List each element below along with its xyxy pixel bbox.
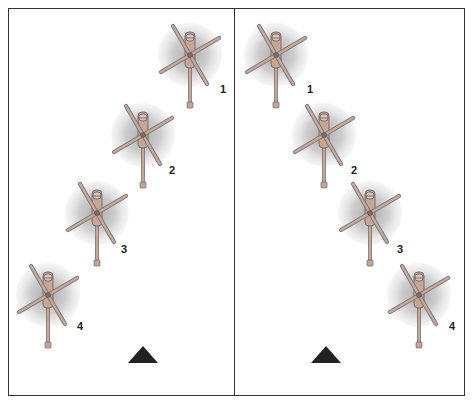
helicopter-number-label: 4: [77, 320, 83, 332]
helicopter-icon: [16, 263, 80, 348]
helicopter-number-label: 3: [397, 243, 403, 255]
helicopter-number-label: 1: [307, 83, 313, 95]
helicopter-icon: [292, 103, 356, 188]
helicopter-icon: [244, 23, 308, 108]
helicopter-number-label: 2: [351, 164, 357, 176]
helicopter-icon: [65, 181, 129, 266]
helicopter-number-label: 2: [169, 164, 175, 176]
helicopter-icon: [158, 23, 222, 108]
triangle-marker-icon: [311, 346, 341, 363]
triangle-marker-icon: [128, 346, 158, 363]
helicopter-number-label: 1: [220, 83, 226, 95]
helicopter-icon: [338, 181, 402, 266]
formation-diagram: 12341234: [0, 0, 472, 405]
helicopter-number-label: 3: [121, 243, 127, 255]
helicopter-icon: [387, 263, 451, 348]
helicopter-icon: [111, 103, 175, 188]
helicopter-layer: [0, 0, 472, 405]
helicopter-number-label: 4: [449, 320, 455, 332]
